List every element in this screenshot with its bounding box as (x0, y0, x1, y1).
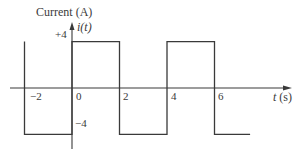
x-tick-label-6: 6 (218, 90, 224, 102)
x-tick-label-neg2: −2 (30, 90, 42, 102)
x-axis-title: t (s) (273, 90, 292, 104)
x-axis-unit: (s) (276, 90, 292, 104)
x-tick-label-2: 2 (123, 90, 129, 102)
x-tick-label-4: 4 (171, 90, 177, 102)
y-tick-label-neg4: −4 (75, 117, 87, 129)
y-axis-symbol: i(t) (77, 20, 92, 34)
square-wave-chart: Current (A) i(t) +4 −4 t (s) −2 0 2 4 6 (0, 0, 301, 156)
x-tick-label-0: 0 (76, 90, 82, 102)
chart-svg: Current (A) i(t) +4 −4 t (s) −2 0 2 4 6 (0, 0, 301, 156)
y-axis-arrow-icon (70, 22, 75, 30)
y-tick-label-pos4: +4 (55, 28, 67, 40)
y-axis-title: Current (A) (36, 5, 92, 19)
